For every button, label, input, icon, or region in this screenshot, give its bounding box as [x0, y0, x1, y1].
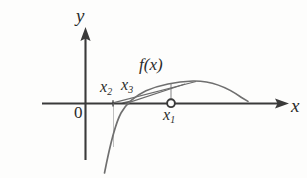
point-label-x3-sub: 3	[128, 84, 133, 95]
figure-canvas	[0, 0, 307, 178]
origin-label: 0	[74, 104, 83, 121]
function-label: f(x)	[139, 56, 163, 73]
newton-method-figure: y x 0 f(x) x1 x2 x3	[0, 0, 307, 178]
point-label-x1-sub: 1	[170, 114, 175, 125]
point-label-x2: x2	[100, 79, 112, 95]
point-label-x3: x3	[121, 77, 133, 93]
point-label-x2-sub: 2	[107, 86, 112, 97]
point-label-x1: x1	[163, 107, 175, 123]
y-axis-label: y	[76, 6, 84, 25]
function-curve	[105, 81, 249, 173]
x-axis-label: x	[291, 96, 299, 115]
